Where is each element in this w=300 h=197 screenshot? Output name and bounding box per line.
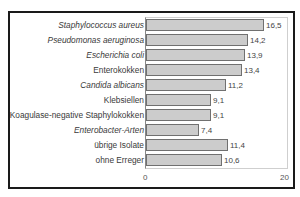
value-label: 7,4 bbox=[201, 123, 212, 138]
category-label: Staphylococcus aureus bbox=[58, 18, 144, 33]
bar bbox=[146, 94, 211, 106]
bar-row: Pseudomonas aeruginosa14,2 bbox=[10, 33, 293, 48]
bar bbox=[146, 109, 211, 121]
x-tick-0: 0 bbox=[143, 173, 147, 182]
value-label: 10,6 bbox=[224, 153, 240, 168]
category-label: Enterobacter-Arten bbox=[74, 123, 144, 138]
bar bbox=[146, 19, 264, 31]
chart-frame: Staphylococcus aureus16,5Pseudomonas aer… bbox=[8, 11, 295, 189]
bar bbox=[146, 34, 248, 46]
bar bbox=[146, 64, 242, 76]
category-label: Klebsiellen bbox=[104, 93, 144, 108]
value-label: 16,5 bbox=[266, 18, 282, 33]
x-tick-20: 20 bbox=[280, 173, 289, 182]
category-label: Pseudomonas aeruginosa bbox=[48, 33, 144, 48]
value-label: 14,2 bbox=[250, 33, 266, 48]
bar-row: Escherichia coli13,9 bbox=[10, 48, 293, 63]
category-label: Escherichia coli bbox=[86, 48, 144, 63]
category-label: übrige Isolate bbox=[94, 138, 144, 153]
bar-row: Enterobacter-Arten7,4 bbox=[10, 123, 293, 138]
bar bbox=[146, 79, 226, 91]
bar-row: übrige Isolate11,4 bbox=[10, 138, 293, 153]
bar bbox=[146, 49, 245, 61]
bar-row: ohne Erreger10,6 bbox=[10, 153, 293, 168]
category-label: ohne Erreger bbox=[96, 153, 144, 168]
bar-row: Klebsiellen9,1 bbox=[10, 93, 293, 108]
bar-row: Enterokokken13,4 bbox=[10, 63, 293, 78]
value-label: 13,9 bbox=[247, 48, 263, 63]
bar bbox=[146, 154, 222, 166]
value-label: 9,1 bbox=[213, 108, 224, 123]
value-label: 11,2 bbox=[228, 78, 243, 93]
bar bbox=[146, 124, 199, 136]
bar bbox=[146, 139, 228, 151]
bar-row: Koagulase-negative Staphylokokken9,1 bbox=[10, 108, 293, 123]
bar-row: Staphylococcus aureus16,5 bbox=[10, 18, 293, 33]
value-label: 9,1 bbox=[213, 93, 224, 108]
value-label: 13,4 bbox=[244, 63, 260, 78]
value-label: 11,4 bbox=[230, 138, 245, 153]
category-label: Koagulase-negative Staphylokokken bbox=[10, 108, 144, 123]
bar-row: Candida albicans11,2 bbox=[10, 78, 293, 93]
category-label: Candida albicans bbox=[80, 78, 144, 93]
category-label: Enterokokken bbox=[93, 63, 144, 78]
